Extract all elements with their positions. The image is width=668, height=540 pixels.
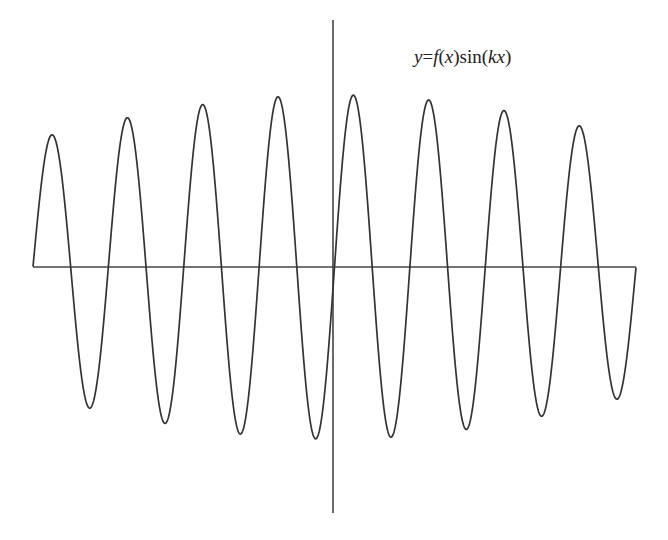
- formula-part: )sin(: [453, 46, 488, 67]
- formula-part: ): [505, 46, 511, 67]
- formula-part: x: [445, 46, 453, 67]
- chart-canvas: [0, 0, 668, 540]
- formula-part: =: [422, 46, 433, 67]
- formula-label: y=f(x)sin(kx): [414, 46, 511, 68]
- formula-part: kx: [488, 46, 505, 67]
